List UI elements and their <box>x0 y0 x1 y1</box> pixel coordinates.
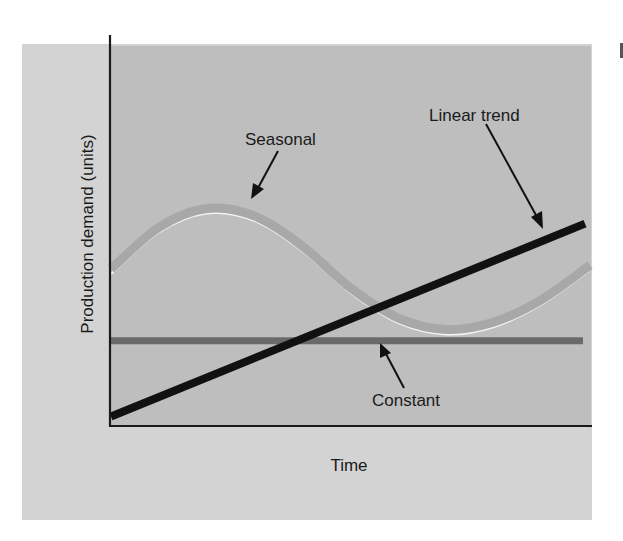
plot-area <box>111 46 591 426</box>
constant-label: Constant <box>372 391 440 410</box>
chart-canvas: Seasonal Linear trend Constant Time Prod… <box>0 0 623 541</box>
y-axis-label: Production demand (units) <box>78 134 97 333</box>
seasonal-label: Seasonal <box>245 130 316 149</box>
linear-trend-label: Linear trend <box>429 106 520 125</box>
chart-figure: Seasonal Linear trend Constant Time Prod… <box>0 0 623 541</box>
x-axis-label: Time <box>330 456 367 475</box>
